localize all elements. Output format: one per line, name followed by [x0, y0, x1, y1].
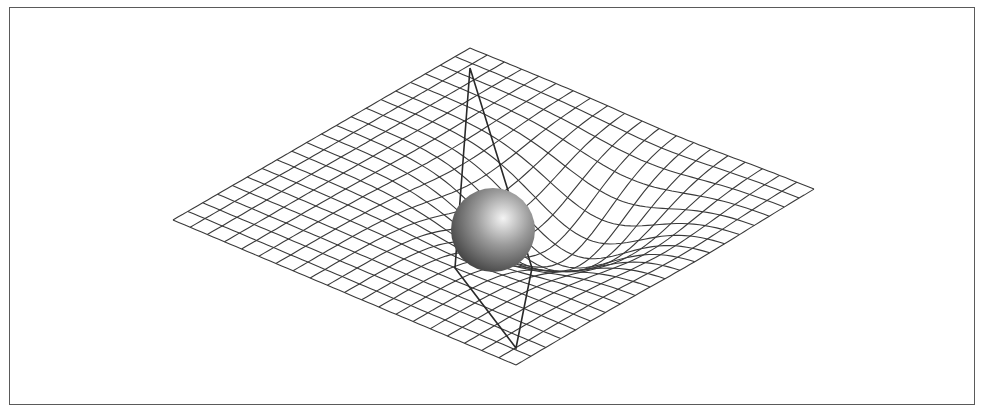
grid-line-u: [455, 57, 799, 198]
grid-line-v: [482, 175, 780, 350]
grid-line-v: [396, 143, 694, 315]
grid-line-v: [516, 189, 814, 365]
grid-line-u: [396, 91, 740, 235]
grid-line-u: [366, 108, 710, 259]
massive-sphere: [451, 188, 535, 272]
grid-line-u: [247, 177, 590, 321]
spacetime-curvature-diagram: [0, 0, 981, 417]
